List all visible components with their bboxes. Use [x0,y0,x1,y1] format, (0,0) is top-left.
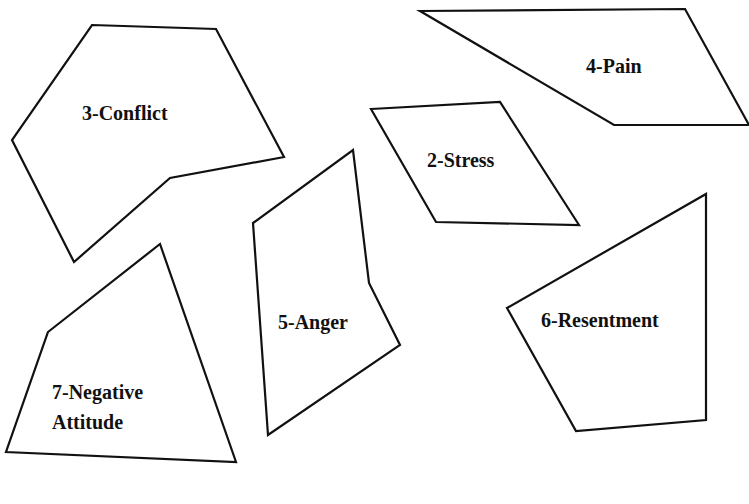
piece-conflict: 3-Conflict [12,25,284,262]
piece-resentment-label: 6-Resentment [541,309,659,331]
piece-negative-attitude: 7-Negative Attitude [6,244,236,462]
piece-conflict-shape [12,25,284,262]
piece-anger-label: 5-Anger [278,311,348,334]
piece-negative-attitude-label-line1: 7-Negative [52,381,143,404]
piece-stress: 2-Stress [371,102,579,225]
piece-resentment: 6-Resentment [507,194,706,431]
piece-anger: 5-Anger [253,150,400,435]
piece-anger-shape [253,150,400,435]
piece-stress-label: 2-Stress [427,149,495,171]
piece-conflict-label: 3-Conflict [82,102,168,124]
piece-negative-attitude-label-line2: Attitude [52,411,123,433]
piece-pain-label: 4-Pain [586,55,642,77]
puzzle-pieces-diagram: 3-Conflict 4-Pain 2-Stress 5-Anger 7-Neg… [0,0,749,504]
